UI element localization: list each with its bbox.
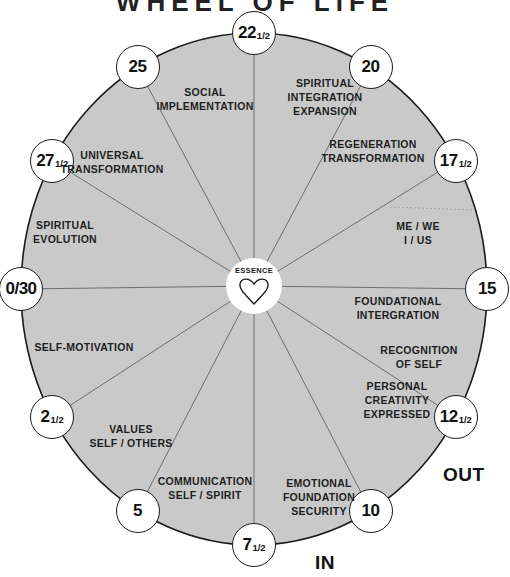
node-value: 5 <box>133 501 142 521</box>
segment-label-line: TRANSFORMATION <box>321 151 424 165</box>
essence-label: ESSENCE <box>235 266 273 275</box>
node-value: 15 <box>478 279 496 299</box>
node-value: 22 <box>238 23 256 43</box>
node-fraction: 1/2 <box>252 542 265 553</box>
segment-label-line: IMPLEMENTATION <box>156 99 253 113</box>
segment-label: COMMUNICATIONSELF / SPIRIT <box>158 474 253 502</box>
segment-label: REGENERATIONTRANSFORMATION <box>321 137 424 165</box>
segment-label-line: FOUNDATIONAL <box>355 294 442 308</box>
position-node: 15 <box>465 267 509 311</box>
node-value: 2 <box>41 407 50 427</box>
segment-label-line: SECURITY <box>283 504 355 518</box>
segment-label: SOCIALIMPLEMENTATION <box>156 85 253 113</box>
node-value: 20 <box>362 57 380 77</box>
segment-label-line: I / US <box>396 233 440 247</box>
node-value: 25 <box>129 57 147 77</box>
position-node: 25 <box>116 45 160 89</box>
in-label: IN <box>315 552 335 574</box>
segment-label-line: SOCIAL <box>156 85 253 99</box>
segment-label-line: OF SELF <box>380 357 457 371</box>
segment-label-line: INTEGRATION <box>288 90 363 104</box>
node-value: 12 <box>440 407 458 427</box>
segment-label-line: UNIVERSAL <box>60 148 163 162</box>
position-node: 71/2 <box>232 523 276 567</box>
position-node: 121/2 <box>434 395 478 439</box>
segment-label-line: VALUES <box>89 422 172 436</box>
segment-label-line: REGENERATION <box>321 137 424 151</box>
segment-label-line: ME / WE <box>396 219 440 233</box>
position-node: 221/2 <box>232 11 276 55</box>
position-node: 0/30 <box>0 267 43 311</box>
segment-label: SELF-MOTIVATION <box>34 340 133 354</box>
heart-icon <box>237 276 271 306</box>
node-fraction: 1/2 <box>459 414 472 425</box>
node-fraction: 1/2 <box>257 30 270 41</box>
position-node: 171/2 <box>434 139 478 183</box>
segment-label-line: SELF-MOTIVATION <box>34 340 133 354</box>
node-fraction: 1/2 <box>51 414 64 425</box>
segment-label: FOUNDATIONALINTERGRATION <box>355 294 442 322</box>
segment-label: SPIRITUALINTEGRATIONEXPANSION <box>288 76 363 118</box>
segment-label-line: EXPRESSED <box>364 407 431 421</box>
segment-label-line: SELF / SPIRIT <box>158 488 253 502</box>
essence-center: ESSENCE <box>226 258 282 314</box>
segment-label-line: INTERGRATION <box>355 308 442 322</box>
node-value: 0/30 <box>5 279 36 299</box>
segment-label-line: SELF / OTHERS <box>89 436 172 450</box>
node-value: 7 <box>242 535 251 555</box>
segment-label-line: SPIRITUAL <box>33 218 97 232</box>
out-label: OUT <box>443 464 485 486</box>
segment-label: PERSONALCREATIVITYEXPRESSED <box>364 379 431 421</box>
node-value: 10 <box>362 501 380 521</box>
segment-label: RECOGNITIONOF SELF <box>380 343 457 371</box>
segment-label: UNIVERSALTRANSFORMATION <box>60 148 163 176</box>
segment-label: VALUESSELF / OTHERS <box>89 422 172 450</box>
position-node: 21/2 <box>30 395 74 439</box>
segment-label-line: EXPANSION <box>288 104 363 118</box>
node-value: 27 <box>36 151 54 171</box>
segment-label: EMOTIONALFOUNDATIONSECURITY <box>283 476 355 518</box>
segment-label-line: PERSONAL <box>364 379 431 393</box>
segment-label-line: COMMUNICATION <box>158 474 253 488</box>
segment-label-line: RECOGNITION <box>380 343 457 357</box>
segment-label-line: SPIRITUAL <box>288 76 363 90</box>
segment-label-line: EMOTIONAL <box>283 476 355 490</box>
node-value: 17 <box>440 151 458 171</box>
segment-label-line: FOUNDATION <box>283 490 355 504</box>
segment-label: ME / WEI / US <box>396 219 440 247</box>
segment-label-line: CREATIVITY <box>364 393 431 407</box>
segment-label-line: EVOLUTION <box>33 232 97 246</box>
position-node: 5 <box>116 489 160 533</box>
segment-label: SPIRITUALEVOLUTION <box>33 218 97 246</box>
segment-label-line: TRANSFORMATION <box>60 162 163 176</box>
node-fraction: 1/2 <box>459 158 472 169</box>
